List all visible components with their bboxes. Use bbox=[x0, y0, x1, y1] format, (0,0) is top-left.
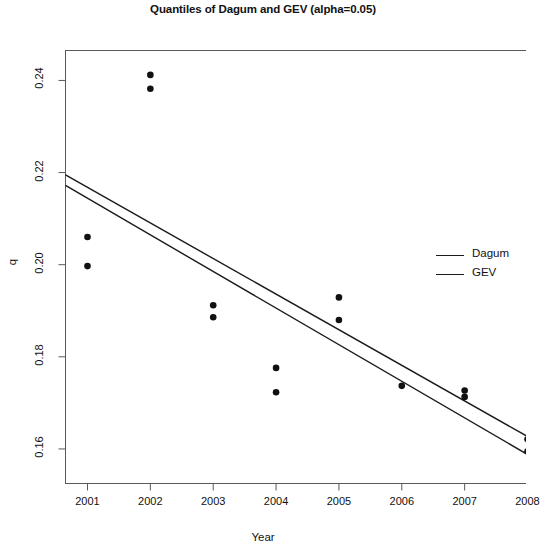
x-axis-ticks bbox=[88, 484, 527, 491]
x-tick-label: 2006 bbox=[382, 495, 422, 507]
chart-legend: Dagum GEV bbox=[436, 247, 526, 285]
y-tick-label: 0.20 bbox=[33, 246, 45, 280]
x-tick-label: 2008 bbox=[508, 495, 544, 507]
y-tick-label: 0.18 bbox=[33, 338, 45, 372]
x-tick-label: 2005 bbox=[319, 495, 359, 507]
y-axis-title: q bbox=[6, 252, 18, 272]
y-tick-label: 0.16 bbox=[33, 430, 45, 464]
trend-lines bbox=[66, 175, 527, 455]
legend-label-dagum: Dagum bbox=[472, 247, 509, 259]
y-tick-label: 0.24 bbox=[33, 61, 45, 95]
x-tick-label: 2007 bbox=[445, 495, 485, 507]
y-tick-label: 0.22 bbox=[33, 154, 45, 188]
legend-label-gev: GEV bbox=[472, 266, 496, 278]
x-tick-label: 2004 bbox=[256, 495, 296, 507]
legend-item-dagum: Dagum bbox=[436, 247, 526, 266]
x-tick-label: 2003 bbox=[193, 495, 233, 507]
y-axis-ticks bbox=[59, 80, 66, 449]
legend-line-dagum bbox=[436, 255, 464, 256]
x-tick-label: 2002 bbox=[130, 495, 170, 507]
x-tick-label: 2001 bbox=[68, 495, 108, 507]
legend-line-gev bbox=[436, 274, 464, 275]
x-axis-title: Year bbox=[0, 531, 526, 543]
legend-item-gev: GEV bbox=[436, 266, 526, 285]
